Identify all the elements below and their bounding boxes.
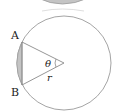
label-theta: θ [45, 58, 51, 69]
circle-segment-diagram: A B θ r [0, 0, 115, 112]
label-r: r [47, 72, 53, 83]
label-b: B [11, 86, 19, 99]
top-shaded-shape [38, 0, 88, 4]
sector-triangle [22, 42, 64, 85]
top-arc-fragment [42, 9, 84, 11]
shaded-segment [17, 42, 22, 85]
label-a: A [10, 29, 20, 42]
diagram-svg: A B θ r [0, 0, 115, 112]
angle-arc [55, 59, 56, 67]
